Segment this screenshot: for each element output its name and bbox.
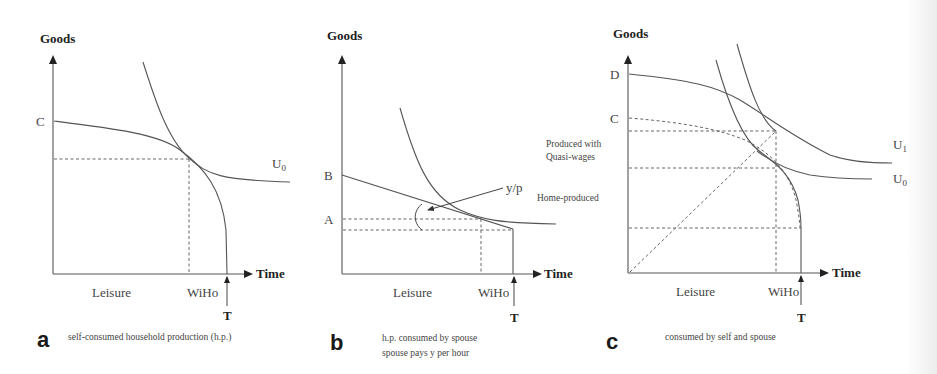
indifference-curve-u0 bbox=[143, 62, 290, 182]
slope-label: y/p bbox=[506, 180, 523, 195]
x-axis-label: Time bbox=[544, 266, 573, 281]
diagonal-dash bbox=[630, 131, 776, 272]
curve-label-u0: U0 bbox=[893, 171, 907, 188]
t-label: T bbox=[510, 310, 519, 325]
home-production-frontier bbox=[629, 118, 800, 228]
point-label-d: D bbox=[610, 67, 619, 82]
x-axis-arrow-icon bbox=[533, 270, 542, 278]
indifference-curve-u0 bbox=[757, 151, 872, 179]
wiho-label: WiHo bbox=[478, 285, 509, 300]
t-marker-arrow-icon bbox=[798, 275, 804, 282]
combined-frontier bbox=[629, 74, 892, 163]
slope-pointer-arrow-icon bbox=[428, 188, 503, 210]
point-label-c: C bbox=[610, 111, 619, 126]
leisure-label: Leisure bbox=[92, 285, 131, 300]
production-frontier bbox=[54, 121, 227, 274]
page-edge-shadow bbox=[907, 0, 937, 374]
region-label-produced-with: Produced with bbox=[546, 139, 601, 149]
slope-bracket bbox=[415, 204, 422, 230]
panel-letter-a: a bbox=[37, 327, 50, 352]
panel-letter-b: b bbox=[330, 330, 343, 355]
household-production-figure: Goods Time C U0 T Leisure WiHo a s bbox=[0, 0, 937, 374]
t-marker-arrow-icon bbox=[511, 276, 517, 283]
caption-b-line1: h.p. consumed by spouse bbox=[382, 333, 477, 343]
budget-line bbox=[342, 175, 513, 229]
y-axis-arrow-icon bbox=[49, 55, 57, 64]
point-label-a: A bbox=[324, 212, 334, 227]
y-axis-arrow-icon bbox=[624, 55, 632, 64]
t-marker-arrow-icon bbox=[224, 276, 230, 283]
region-label-quasi-wages: Quasi-wages bbox=[546, 152, 595, 162]
y-axis-label: Goods bbox=[613, 26, 648, 41]
point-label-c: C bbox=[36, 114, 45, 129]
x-axis-label: Time bbox=[256, 266, 285, 281]
production-frontier bbox=[716, 60, 801, 273]
x-axis-arrow-icon bbox=[820, 269, 829, 277]
leisure-label: Leisure bbox=[393, 285, 432, 300]
y-axis-arrow-icon bbox=[338, 55, 346, 64]
curve-label-u1: U1 bbox=[893, 137, 907, 154]
panel-c: Goods Time D C U1 U0 bbox=[606, 26, 907, 354]
t-label: T bbox=[797, 310, 806, 325]
leisure-label: Leisure bbox=[676, 284, 715, 299]
caption-c: consumed by self and spouse bbox=[665, 332, 776, 342]
t-label: T bbox=[223, 308, 232, 323]
y-axis-label: Goods bbox=[40, 31, 75, 46]
panel-letter-c: c bbox=[606, 329, 618, 354]
x-axis-arrow-icon bbox=[244, 270, 253, 278]
caption-b-line2: spouse pays y per hour bbox=[382, 348, 470, 358]
region-label-home-produced: Home-produced bbox=[537, 193, 599, 203]
panel-b: Goods Time B A y/p T bbox=[324, 28, 601, 358]
wiho-label: WiHo bbox=[768, 284, 799, 299]
point-label-b: B bbox=[324, 168, 333, 183]
caption-a: self-consumed household production (h.p.… bbox=[68, 332, 231, 343]
wiho-label: WiHo bbox=[187, 285, 218, 300]
curve-label-u0: U0 bbox=[272, 156, 286, 173]
y-axis-label: Goods bbox=[327, 28, 362, 43]
x-axis-label: Time bbox=[832, 265, 861, 280]
panel-a: Goods Time C U0 T Leisure WiHo a s bbox=[36, 31, 290, 352]
indifference-curve bbox=[400, 108, 556, 224]
indifference-curve-u1 bbox=[737, 44, 776, 131]
